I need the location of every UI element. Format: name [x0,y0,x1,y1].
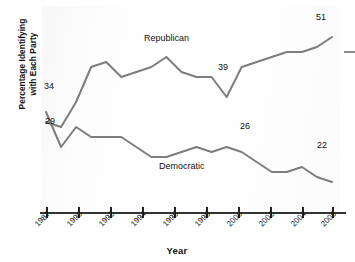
series-label-republican: Republican [144,33,189,43]
data-label-39: 39 [218,62,228,72]
plot-area [42,6,340,212]
series-label-democratic: Democratic [159,161,205,171]
y-axis-title: Percentage Identifying with Each Party [12,0,44,144]
data-label-51: 51 [316,12,326,22]
data-label-26: 26 [240,121,250,131]
y-axis-title-line2: with Each Party [28,32,40,95]
plot-svg [42,6,340,212]
series-line-republican [46,37,332,127]
data-label-29: 29 [45,116,55,126]
data-label-22: 22 [317,140,327,150]
y-axis-title-line1: Percentage Identifying [17,19,29,110]
series-line-democratic [46,112,332,182]
x-tick-label-1987: 1987 [33,209,52,228]
data-label-34: 34 [44,81,54,91]
x-axis-title: Year [0,245,354,256]
edge-line-artifact [344,51,355,53]
